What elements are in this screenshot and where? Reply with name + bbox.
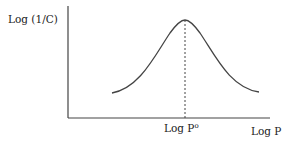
diagram-canvas: Log (1/C) Log Po Log P bbox=[0, 0, 291, 142]
peak-label: Log Po bbox=[164, 122, 199, 134]
x-axis-label: Log P bbox=[251, 125, 281, 137]
y-axis-label: Log (1/C) bbox=[8, 13, 58, 25]
